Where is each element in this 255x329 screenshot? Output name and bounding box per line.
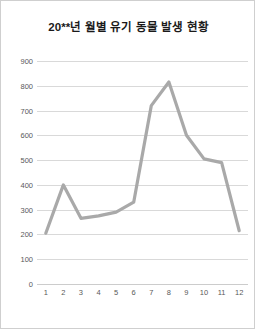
x-axis-tick-label: 9 (184, 288, 188, 297)
line-series-path (46, 82, 239, 233)
y-axis-tick-label: 900 (20, 57, 33, 66)
chart-title: 20**년 월별 유기 동물 발생 현황 (1, 18, 255, 34)
x-axis-tick-label: 12 (235, 288, 243, 297)
x-axis-tick-label: 6 (132, 288, 136, 297)
y-axis-tick-label: 400 (20, 180, 33, 189)
y-axis-tick-label: 0 (29, 280, 33, 289)
x-axis-tick-label: 11 (218, 288, 226, 297)
x-axis-tick-label: 5 (114, 288, 118, 297)
x-axis-tick-label: 7 (149, 288, 153, 297)
y-axis-tick-label: 600 (20, 131, 33, 140)
y-axis-tick-labels: 0100200300400500600700800900 (1, 61, 33, 284)
x-axis-tick-label: 4 (96, 288, 100, 297)
y-axis-tick-label: 100 (20, 255, 33, 264)
x-axis-tick-label: 8 (167, 288, 171, 297)
y-axis-tick-label: 700 (20, 106, 33, 115)
line-series-svg (37, 61, 248, 284)
plot-area (37, 61, 248, 284)
y-axis-tick-label: 300 (20, 205, 33, 214)
x-axis-tick-labels: 123456789101112 (37, 288, 248, 304)
x-axis-tick-label: 1 (44, 288, 48, 297)
chart-card: 20**년 월별 유기 동물 발생 현황 0100200300400500600… (0, 0, 255, 329)
gridline (37, 284, 248, 285)
y-axis-tick-label: 800 (20, 81, 33, 90)
x-axis-tick-label: 2 (61, 288, 65, 297)
y-axis-tick-label: 500 (20, 156, 33, 165)
y-axis-tick-label: 200 (20, 230, 33, 239)
x-axis-tick-label: 10 (200, 288, 208, 297)
x-axis-tick-label: 3 (79, 288, 83, 297)
